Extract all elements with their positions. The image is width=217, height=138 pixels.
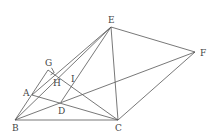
label-point-e: E xyxy=(108,15,115,25)
segment-ac xyxy=(32,95,118,120)
segment-bg xyxy=(15,70,48,120)
segment-ec xyxy=(111,27,118,120)
geometry-diagram: A B C D E F G H I xyxy=(0,0,217,138)
label-point-f: F xyxy=(200,48,206,58)
segments xyxy=(15,27,195,120)
label-point-i: I xyxy=(71,74,75,84)
label-point-c: C xyxy=(115,123,122,133)
label-point-a: A xyxy=(22,88,30,98)
label-point-g: G xyxy=(45,58,52,68)
point-labels: A B C D E F G H I xyxy=(12,15,206,133)
segment-fc xyxy=(118,52,195,120)
label-point-d: D xyxy=(58,106,65,116)
label-point-h: H xyxy=(53,78,61,88)
segment-ef xyxy=(111,27,195,52)
label-point-b: B xyxy=(12,123,19,133)
segment-ae xyxy=(32,27,111,95)
segment-ed xyxy=(61,27,111,102)
